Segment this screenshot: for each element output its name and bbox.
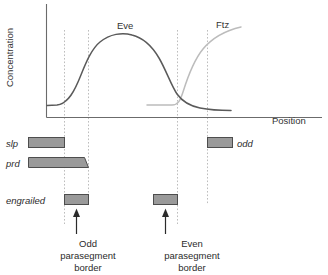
figure-root: Concentration Position Eve Ftz slp prd e… (0, 0, 328, 275)
even-border-arrow (162, 209, 169, 235)
eve-curve-label: Eve (117, 21, 133, 32)
odd-border-arrow (73, 209, 80, 235)
odd-expression-bar (208, 138, 233, 148)
ftz-curve-label: Ftz (216, 20, 229, 31)
even-border-caption-line1: Even (142, 238, 242, 250)
prd-expression-bar (29, 158, 89, 168)
even-border-caption-line2: parasegment (142, 250, 242, 262)
odd-gene-label: odd (237, 139, 253, 150)
engrailed-expression-bar-odd (65, 195, 89, 205)
slp-bar-group (29, 138, 65, 148)
slp-gene-label: slp (6, 139, 18, 150)
eve-curve-group (47, 34, 231, 111)
eve-curve (47, 34, 231, 111)
even-border-arrow-head (162, 209, 169, 218)
slp-expression-bar (29, 138, 65, 148)
y-axis-label: Concentration (5, 21, 16, 93)
even-border-caption-line3: border (142, 262, 242, 274)
prd-gene-label: prd (6, 159, 20, 170)
even-parasegment-border-caption: Even parasegment border (142, 238, 242, 274)
odd-border-caption-line3: border (38, 262, 138, 274)
odd-border-caption-line1: Odd (38, 238, 138, 250)
prd-bar-group (29, 158, 89, 168)
ftz-curve (147, 27, 241, 105)
odd-bar-group (208, 138, 233, 148)
diagram-canvas (0, 0, 328, 275)
odd-border-caption-line2: parasegment (38, 250, 138, 262)
engrailed-expression-bar-even (154, 195, 178, 205)
engrailed-gene-label: engrailed (6, 196, 45, 207)
odd-border-arrow-head (73, 209, 80, 218)
odd-parasegment-border-caption: Odd parasegment border (38, 238, 138, 274)
ftz-curve-group (147, 27, 241, 105)
x-axis-label: Position (272, 116, 306, 127)
engrailed-bar-group (65, 195, 178, 205)
